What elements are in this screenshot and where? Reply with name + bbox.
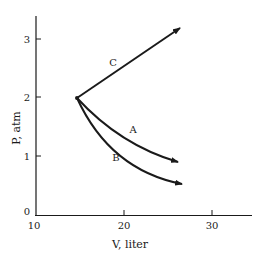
- x-tick-label-30: 30: [206, 220, 219, 231]
- y-tick-label-1: 1: [24, 151, 30, 162]
- curve-label-b: B: [112, 152, 119, 163]
- curve-a: [77, 98, 178, 162]
- curve-label-c: C: [109, 57, 117, 68]
- start-point: [75, 96, 79, 100]
- y-tick-label-0: 0: [24, 206, 30, 217]
- x-axis-title: V, liter: [111, 238, 149, 251]
- x-ticks: [124, 210, 212, 215]
- y-axis-title: P, atm: [10, 111, 23, 145]
- curve-c: [77, 28, 180, 98]
- curve-label-a: A: [128, 124, 137, 135]
- x-tick-label-10: 10: [28, 220, 41, 231]
- y-tick-label-3: 3: [24, 34, 30, 45]
- pv-chart: 3 2 1 0 10 20 30 V, liter P, atm C A B: [0, 0, 261, 260]
- x-tick-label-20: 20: [118, 220, 131, 231]
- y-tick-label-2: 2: [24, 92, 30, 103]
- y-ticks: [36, 39, 41, 156]
